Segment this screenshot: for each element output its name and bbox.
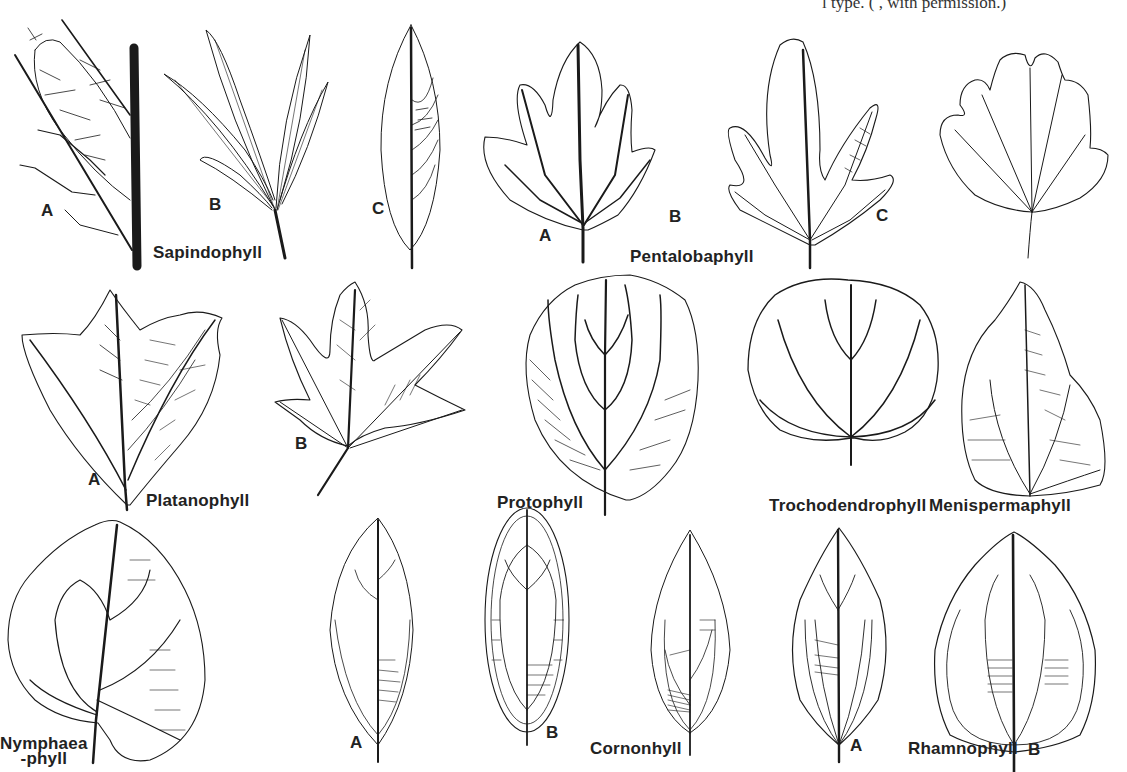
nymphaeaphyll-label: Nymphaea -phyll bbox=[0, 736, 88, 766]
pentalobaphyll-c-leaf-drawing bbox=[940, 53, 1108, 258]
sapindophyll-label: Sapindophyll bbox=[153, 244, 262, 261]
cornophyll-leaf-drawing bbox=[651, 530, 730, 755]
leaf-drawings bbox=[0, 0, 1127, 772]
platanophyll-a-leaf-drawing bbox=[22, 290, 222, 510]
sapindophyll-b-leaf-drawing bbox=[164, 30, 328, 258]
sapindophyll-c-leaf-drawing bbox=[381, 25, 440, 268]
cinnamomophyll-b-leaf-drawing bbox=[485, 508, 569, 745]
menispermaphyll-leaf-drawing bbox=[962, 282, 1105, 496]
nymphaeaphyll-label-line2: -phyll bbox=[0, 751, 88, 766]
cinnamomophyll-variant-a-label: A bbox=[350, 734, 362, 751]
nymphaeaphyll-leaf-drawing bbox=[8, 521, 205, 763]
trochodendrophyll-label: Trochodendrophyll bbox=[769, 497, 926, 514]
sapindophyll-variant-a-label: A bbox=[41, 202, 53, 219]
pentalobaphyll-variant-a-label: A bbox=[539, 227, 551, 244]
pentalobaphyll-a-leaf-drawing bbox=[484, 42, 655, 262]
rhamnophyll-variant-a-label: A bbox=[850, 737, 862, 754]
protophyll-label: Protophyll bbox=[497, 494, 583, 511]
sapindophyll-variant-b-label: B bbox=[209, 196, 221, 213]
pentalobaphyll-b-leaf-drawing bbox=[728, 39, 893, 268]
rhamnophyll-b-leaf-drawing bbox=[935, 532, 1096, 772]
menispermaphyll-label: Menispermaphyll bbox=[929, 497, 1071, 514]
platanophyll-variant-b-label: B bbox=[295, 435, 307, 452]
leaf-architecture-figure: l type. ( , with permission.) bbox=[0, 0, 1127, 772]
sapindophyll-a-leaf-drawing bbox=[15, 20, 137, 266]
platanophyll-b-leaf-drawing bbox=[275, 282, 465, 495]
platanophyll-variant-a-label: A bbox=[88, 471, 100, 488]
cinnamomophyll-a-leaf-drawing bbox=[330, 518, 413, 762]
cinnamomophyll-variant-b-label: B bbox=[546, 724, 558, 741]
platanophyll-label: Platanophyll bbox=[146, 492, 249, 509]
pentalobaphyll-variant-c-label: C bbox=[876, 207, 888, 224]
rhamnophyll-label: Rhamnophyll bbox=[908, 740, 1018, 757]
pentalobaphyll-variant-b-label: B bbox=[669, 208, 681, 225]
pentalobaphyll-label: Pentalobaphyll bbox=[630, 248, 754, 265]
rhamnophyll-variant-b-label: B bbox=[1028, 741, 1040, 758]
sapindophyll-variant-c-label: C bbox=[372, 200, 384, 217]
trochodendrophyll-leaf-drawing bbox=[748, 279, 938, 465]
cornophyll-label: Cornonhyll bbox=[590, 740, 682, 757]
rhamnophyll-a-leaf-drawing bbox=[793, 528, 887, 762]
protophyll-leaf-drawing bbox=[526, 275, 698, 515]
